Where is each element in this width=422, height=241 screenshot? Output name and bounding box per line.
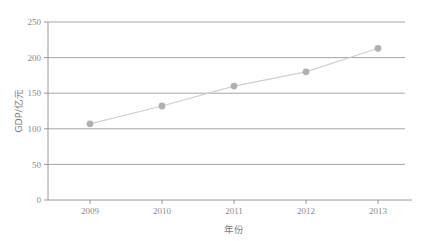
data-point-2011 xyxy=(231,83,238,90)
x-tick-label-2013: 2013 xyxy=(369,206,388,216)
data-point-2009 xyxy=(87,120,94,127)
y-tick-label-150: 150 xyxy=(28,88,42,98)
y-tick-label-250: 250 xyxy=(28,17,42,27)
y-tick-label-100: 100 xyxy=(28,124,42,134)
x-axis-title: 年份 xyxy=(224,224,244,235)
x-tick-label-2012: 2012 xyxy=(297,206,315,216)
y-axis-title: GDP/亿元 xyxy=(13,89,24,133)
data-point-2013 xyxy=(375,45,382,52)
chart-figure: 250 200 150 100 50 0 2009 2010 2011 2012… xyxy=(0,0,422,241)
chart-background xyxy=(0,0,422,241)
y-tick-label-50: 50 xyxy=(32,160,42,170)
x-tick-label-2010: 2010 xyxy=(153,206,172,216)
y-tick-label-200: 200 xyxy=(28,53,42,63)
line-chart: 250 200 150 100 50 0 2009 2010 2011 2012… xyxy=(0,0,422,241)
x-tick-label-2009: 2009 xyxy=(81,206,100,216)
x-tick-label-2011: 2011 xyxy=(225,206,243,216)
data-point-2010 xyxy=(159,103,166,110)
y-tick-label-0: 0 xyxy=(37,195,42,205)
data-point-2012 xyxy=(303,68,310,75)
